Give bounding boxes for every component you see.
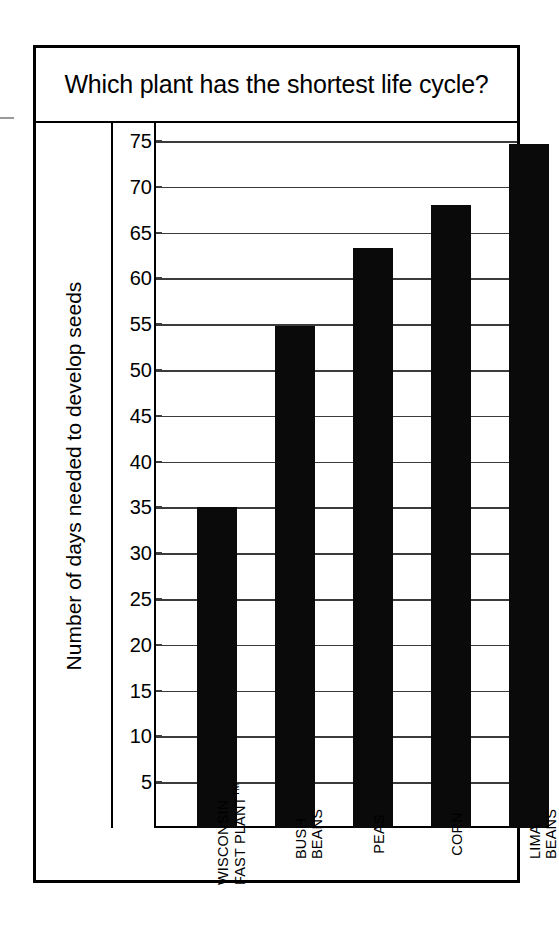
- x-category-line2-4: BEANS: [543, 809, 559, 859]
- x-category-label-2: PEAS: [351, 834, 391, 850]
- y-tick-label-5: 5: [141, 772, 152, 792]
- y-tick-label-30: 30: [130, 543, 152, 563]
- plot-area: [154, 123, 517, 828]
- x-category-line2-0: FAST PLANTTM: [231, 783, 248, 885]
- x-category-line1-0: WISCONSIN: [215, 783, 231, 885]
- y-axis-title: Number of days needed to develop seeds: [62, 281, 86, 670]
- bar-2: [353, 248, 393, 828]
- y-tick-label-65: 65: [130, 223, 152, 243]
- gridline-75: [156, 141, 517, 143]
- x-category-line1-2: PEAS: [371, 814, 387, 854]
- x-axis-category-labels: WISCONSINFAST PLANTTMBUSHBEANSPEASCORNLI…: [154, 828, 517, 880]
- plot-wrapper: 75706560555045403530252015105: [113, 123, 517, 828]
- y-tick-label-75: 75: [130, 131, 152, 151]
- x-category-label-1: BUSHBEANS: [273, 834, 313, 866]
- y-tick-label-25: 25: [130, 589, 152, 609]
- trademark-symbol-0: TM: [231, 783, 241, 796]
- bar-3: [431, 205, 471, 828]
- y-tick-label-70: 70: [130, 177, 152, 197]
- y-tick-label-50: 50: [130, 360, 152, 380]
- chart-figure: Which plant has the shortest life cycle?…: [33, 45, 520, 883]
- page-title: Which plant has the shortest life cycle?: [64, 70, 488, 99]
- gridline-70: [156, 187, 517, 189]
- y-axis-tick-labels: 75706560555045403530252015105: [113, 123, 154, 828]
- x-category-line2-1: BEANS: [309, 809, 325, 859]
- x-category-label-3: CORN: [429, 834, 469, 850]
- y-tick-label-15: 15: [130, 681, 152, 701]
- chart-body: Number of days needed to develop seeds 7…: [36, 123, 517, 880]
- x-category-label-0: WISCONSINFAST PLANTTM: [195, 834, 235, 867]
- y-tick-label-20: 20: [130, 635, 152, 655]
- y-tick-label-10: 10: [130, 726, 152, 746]
- bar-4: [509, 144, 549, 828]
- x-category-line1-4: LIMA: [527, 809, 543, 859]
- y-tick-label-35: 35: [130, 497, 152, 517]
- y-tick-label-45: 45: [130, 406, 152, 426]
- chart-title-band: Which plant has the shortest life cycle?: [36, 48, 517, 123]
- scan-artifact: [0, 117, 14, 119]
- x-category-line1-3: CORN: [449, 812, 465, 856]
- bar-0: [197, 507, 237, 828]
- y-tick-label-55: 55: [130, 314, 152, 334]
- x-category-label-4: LIMABEANS: [507, 834, 547, 866]
- y-tick-label-40: 40: [130, 452, 152, 472]
- bar-1: [275, 326, 315, 828]
- x-category-line1-1: BUSH: [293, 809, 309, 859]
- y-tick-label-60: 60: [130, 268, 152, 288]
- y-axis-title-column: Number of days needed to develop seeds: [36, 123, 113, 828]
